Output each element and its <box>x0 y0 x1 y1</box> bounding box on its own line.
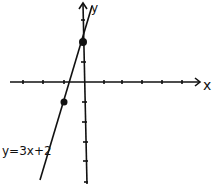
graph-canvas: x y y=3x+2 <box>0 0 218 186</box>
y-axis <box>79 3 88 184</box>
x-axis <box>10 78 200 86</box>
equation-label: y=3x+2 <box>2 144 52 158</box>
point-0-2 <box>79 38 87 46</box>
x-axis-label: x <box>203 77 211 93</box>
point-neg1-neg1 <box>61 99 68 106</box>
y-axis-label: y <box>91 1 98 15</box>
